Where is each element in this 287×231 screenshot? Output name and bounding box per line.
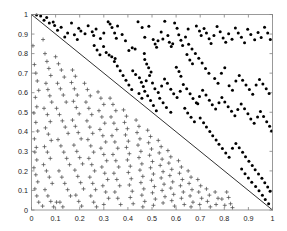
data-point <box>185 53 188 56</box>
data-point <box>263 26 266 29</box>
data-point <box>223 66 226 69</box>
data-point <box>214 108 217 111</box>
data-point <box>177 33 180 36</box>
x-tick-label: 0 <box>30 214 34 223</box>
data-point <box>137 92 140 95</box>
data-point <box>190 116 193 119</box>
data-point <box>223 101 226 104</box>
data-point <box>134 73 137 76</box>
data-point <box>152 104 155 107</box>
chart-canvas: 00.10.20.30.40.50.60.70.80.91 00.10.20.3… <box>0 0 287 231</box>
data-point <box>255 83 258 86</box>
data-point <box>119 69 122 72</box>
data-point <box>257 173 260 176</box>
data-point <box>183 107 186 110</box>
data-point <box>96 49 99 52</box>
data-point <box>153 87 156 90</box>
data-point <box>163 20 166 23</box>
data-point <box>204 67 207 70</box>
data-point <box>196 102 199 105</box>
data-point <box>138 76 141 79</box>
data-point <box>131 69 134 72</box>
data-point <box>169 88 172 91</box>
data-point <box>249 117 252 120</box>
data-point <box>241 79 244 82</box>
data-point <box>43 19 46 22</box>
data-point <box>231 89 234 92</box>
data-point <box>227 32 230 35</box>
data-point <box>124 79 127 82</box>
data-point <box>248 88 251 91</box>
y-tick-label: 1 <box>24 10 28 19</box>
data-point <box>240 36 243 39</box>
data-point <box>107 20 110 23</box>
data-point <box>143 58 146 61</box>
x-tick-label: 0.9 <box>243 214 253 223</box>
data-point <box>212 34 215 37</box>
data-point <box>187 43 190 46</box>
data-point <box>222 36 225 39</box>
data-point <box>228 156 231 159</box>
x-tick-label: 0.7 <box>195 214 205 223</box>
data-point <box>269 38 272 41</box>
data-point <box>155 109 158 112</box>
data-point <box>175 66 178 69</box>
data-point <box>176 27 179 30</box>
data-point <box>48 22 51 25</box>
data-point <box>145 79 148 82</box>
data-point <box>234 142 237 145</box>
data-point <box>114 57 117 60</box>
data-point <box>216 25 219 28</box>
data-point <box>84 32 87 35</box>
data-point <box>169 111 172 114</box>
data-point <box>110 26 113 29</box>
data-point <box>45 16 48 19</box>
data-point <box>243 107 246 110</box>
y-tick-label: 0 <box>24 206 28 215</box>
data-point <box>93 44 96 47</box>
data-point <box>205 126 208 129</box>
data-point <box>267 202 270 205</box>
data-point <box>155 46 158 49</box>
data-point <box>179 39 182 42</box>
data-point <box>244 83 247 86</box>
data-point <box>213 77 216 80</box>
data-point <box>185 87 188 90</box>
data-point <box>173 21 176 24</box>
data-point <box>217 143 220 146</box>
data-point <box>113 32 116 35</box>
data-point <box>87 24 90 27</box>
data-point <box>179 90 182 93</box>
data-point <box>157 39 160 42</box>
data-point <box>99 37 102 40</box>
data-point <box>171 42 174 45</box>
data-point <box>240 103 243 106</box>
data-point <box>116 65 119 68</box>
data-point <box>53 24 56 27</box>
data-point <box>189 92 192 95</box>
data-point <box>145 62 148 65</box>
data-point <box>165 106 168 109</box>
data-point <box>191 47 194 50</box>
data-point <box>142 85 145 88</box>
data-point <box>266 185 269 188</box>
data-point <box>91 30 94 33</box>
data-point <box>234 26 237 29</box>
x-tick-label: 0.1 <box>51 214 61 223</box>
y-tick-label: 0.9 <box>18 30 28 39</box>
data-point <box>238 74 241 77</box>
x-tick-label: 0.4 <box>123 214 133 223</box>
y-tick-label: 0.8 <box>18 49 28 58</box>
data-point <box>251 164 254 167</box>
data-point <box>236 108 239 111</box>
data-point <box>79 29 82 32</box>
data-point <box>211 134 214 137</box>
data-point <box>244 155 247 158</box>
data-point <box>146 94 149 97</box>
data-point <box>224 151 227 154</box>
data-point <box>230 110 233 113</box>
data-point <box>246 28 249 31</box>
y-tick-label: 0.5 <box>18 108 28 117</box>
data-point <box>269 190 272 193</box>
data-point <box>265 120 268 123</box>
